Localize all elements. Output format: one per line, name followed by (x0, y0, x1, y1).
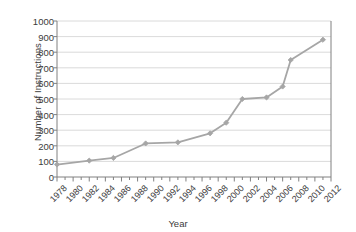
plot-area (0, 0, 356, 232)
x-axis-title: Year (0, 218, 356, 229)
data-point-marker (175, 140, 180, 145)
data-point-marker (87, 158, 92, 163)
data-point-marker (143, 141, 148, 146)
data-point-marker (111, 155, 116, 160)
chart-container: Number of Instructions 01002003004005006… (0, 0, 356, 232)
data-point-marker (54, 162, 59, 167)
